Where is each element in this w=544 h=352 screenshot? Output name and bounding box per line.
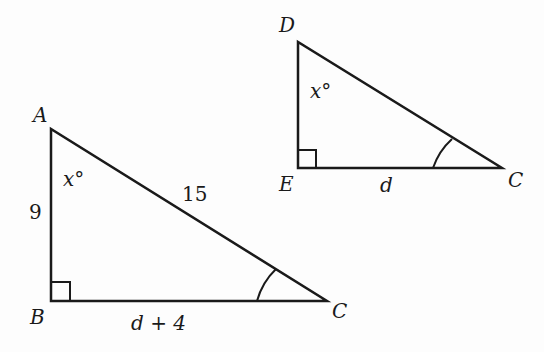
angle-arc-c2 bbox=[433, 139, 452, 168]
similar-triangles-diagram: A B C 9 15 d + 4 x° D E C d x° bbox=[0, 0, 544, 352]
angle-a-label: x° bbox=[63, 167, 84, 191]
triangle-abc: A B C 9 15 d + 4 x° bbox=[29, 103, 347, 335]
triangle-dec: D E C d x° bbox=[278, 13, 523, 197]
right-angle-marker-b bbox=[51, 282, 70, 301]
triangle-abc-outline bbox=[51, 129, 327, 301]
vertex-label-c1: C bbox=[332, 299, 347, 323]
triangle-dec-outline bbox=[298, 42, 502, 168]
side-ab-label: 9 bbox=[29, 200, 42, 224]
side-ec-label: d bbox=[380, 173, 393, 197]
angle-arc-c1 bbox=[257, 269, 276, 301]
vertex-label-d: D bbox=[278, 13, 295, 37]
vertex-label-e: E bbox=[278, 172, 294, 196]
side-bc-label: d + 4 bbox=[131, 311, 186, 335]
vertex-label-c2: C bbox=[508, 168, 523, 192]
vertex-label-a: A bbox=[31, 103, 47, 127]
vertex-label-b: B bbox=[29, 305, 45, 329]
right-angle-marker-e bbox=[298, 150, 316, 168]
angle-d-label: x° bbox=[310, 79, 331, 103]
side-ac-label: 15 bbox=[182, 182, 207, 206]
